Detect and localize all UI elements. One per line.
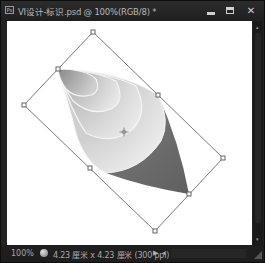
zoom-level-field[interactable]: 100% [11,249,34,258]
transform-handle-top-right-mid[interactable] [156,93,160,97]
close-button[interactable]: ✕ [243,4,259,18]
document-title: VI设计-标识.psd @ 100%(RGB/8) * [18,5,156,17]
scroll-down-icon[interactable]: ▾ [256,236,259,242]
transform-handle-top-left-mid[interactable] [56,67,60,71]
document-status-icon[interactable] [40,249,48,257]
horizontal-scrollbar[interactable] [171,249,246,258]
transform-handle-top[interactable] [91,30,95,34]
status-bar: 100% 4.23 厘米 x 4.23 厘米 (300 ppi) ▶ ◂ [1,245,264,262]
transform-handle-left[interactable] [22,103,26,107]
scroll-up-icon[interactable]: ▴ [256,24,259,30]
document-size-info: 4.23 厘米 x 4.23 厘米 (300 ppi) [53,249,169,260]
maximize-icon [226,7,234,14]
transform-handle-bottom-left-mid[interactable] [88,166,92,170]
transform-handle-right[interactable] [221,156,225,160]
artwork-svg [7,21,252,245]
minimize-icon [207,12,215,15]
minimize-button[interactable] [203,4,219,18]
close-icon: ✕ [247,5,255,16]
scroll-left-icon[interactable]: ◂ [162,249,166,257]
transform-handle-bottom-right-mid[interactable] [187,192,191,196]
status-menu-arrow-icon[interactable]: ▶ [153,249,158,257]
vertical-scroll-thumb[interactable] [255,33,261,223]
photoshop-app-icon: Ps [5,6,14,14]
document-canvas[interactable] [7,21,252,245]
resize-grip-icon[interactable] [254,251,262,259]
maximize-button[interactable] [222,4,238,18]
transform-handle-bottom[interactable] [153,229,157,233]
document-window: Ps VI设计-标识.psd @ 100%(RGB/8) * ✕ [0,0,265,263]
title-bar[interactable]: Ps VI设计-标识.psd @ 100%(RGB/8) * ✕ [1,1,264,21]
vertical-scrollbar[interactable]: ▴ ▾ [253,21,263,245]
